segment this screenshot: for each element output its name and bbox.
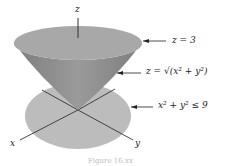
figure-caption: Figure 16.xx	[88, 157, 133, 165]
cone-diagram	[0, 0, 227, 166]
z-axis-label: z	[75, 5, 80, 14]
annotation-cone: z = √(x² + y²)	[146, 67, 207, 76]
x-axis-label: x	[10, 139, 15, 148]
annotation-top: z = 3	[172, 36, 196, 45]
arrow-disk-icon	[131, 105, 137, 109]
y-axis-label: y	[135, 139, 140, 148]
annotation-disk: x² + y² ≤ 9	[158, 101, 208, 110]
arrow-top-icon	[143, 39, 149, 43]
